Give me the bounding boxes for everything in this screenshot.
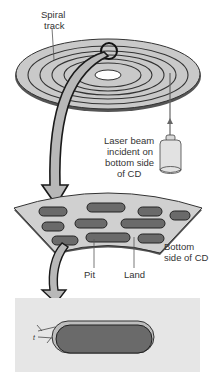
- center-hole: [95, 70, 121, 80]
- label-bottom-2: side of CD: [164, 252, 208, 263]
- label-laser-2: incident on: [107, 146, 153, 157]
- label-spiral: Spiral: [41, 9, 65, 20]
- label-bottom-1: Bottom: [164, 241, 194, 252]
- cd-diagram: Spiral track Laser beam incident on bott…: [0, 0, 215, 382]
- label-laser-1: Laser beam: [104, 135, 154, 146]
- zoom-arrow-2: [42, 243, 68, 303]
- laser-arrow-icon: [167, 118, 173, 124]
- pit-closeup: [52, 321, 154, 353]
- label-land: Land: [124, 269, 145, 280]
- cd-disc: [15, 28, 201, 112]
- label-laser-4: of CD: [117, 168, 141, 179]
- label-pit: Pit: [84, 269, 95, 280]
- label-laser-3: bottom side: [105, 157, 154, 168]
- label-track: track: [44, 20, 65, 31]
